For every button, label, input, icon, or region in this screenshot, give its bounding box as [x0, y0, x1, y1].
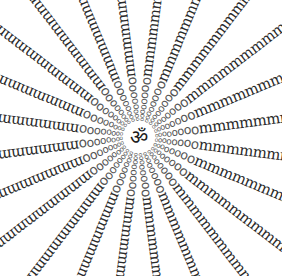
om-mandala: ॐ oooooooommmmmmmmmoooooooommmmmmmmmoooo…: [0, 0, 282, 276]
om-symbol: ॐ: [130, 127, 148, 147]
